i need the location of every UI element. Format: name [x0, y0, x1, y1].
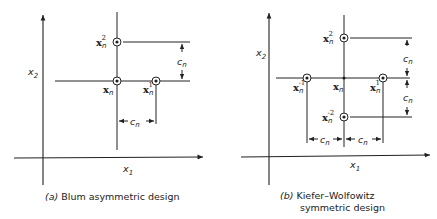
y-axis-label: x2 — [27, 66, 39, 80]
x-axis-label: x1 — [122, 163, 133, 177]
panel-a: x2 x1 cn cn xn2 xn xn1 (a)Bl — [14, 12, 203, 202]
dimension-label-cn: cn — [403, 53, 413, 66]
dimension-label-cn: cn — [130, 116, 140, 129]
label-xn2: xn2 — [323, 30, 333, 46]
design-point-xn2 — [113, 38, 121, 46]
panel-b: x2 x1 cn cn cn cn xn2 xn-1 — [241, 13, 430, 213]
dimension-label-cn: cn — [358, 134, 368, 147]
design-point-xn2 — [340, 34, 348, 42]
label-xn-minus2: xn-2 — [322, 109, 334, 125]
label-xn: xn — [103, 84, 113, 97]
design-point-xn1 — [379, 74, 387, 82]
x-axis-label: x1 — [349, 159, 360, 173]
dimension-label-cn: cn — [403, 92, 413, 105]
dimension-label-cn: cn — [320, 134, 330, 147]
design-point-xn1 — [152, 77, 160, 85]
caption-a: (a)Blum asymmetric design — [45, 191, 179, 202]
label-xn1: xn1 — [143, 81, 153, 97]
label-xn2: xn2 — [96, 34, 106, 50]
dimension-label-cn: cn — [177, 56, 187, 69]
x-axis — [14, 157, 203, 158]
design-point-xn — [113, 77, 121, 85]
label-xn: xn — [333, 81, 343, 94]
y-axis-label: x2 — [255, 47, 267, 61]
label-xn1: xn1 — [370, 79, 380, 95]
design-point-xn — [342, 76, 345, 79]
caption-b-line2: symmetric design — [300, 202, 385, 213]
design-point-xn-minus2 — [340, 113, 348, 121]
caption-b-line1: (b)Kiefer–Wolfowitz — [280, 190, 375, 201]
label-xn-minus1: xn-1 — [293, 79, 305, 95]
